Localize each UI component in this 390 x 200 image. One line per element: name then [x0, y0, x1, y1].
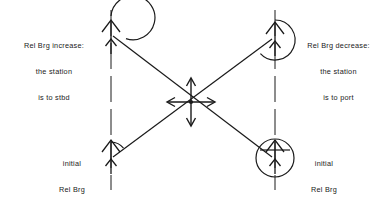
label-bottom-right-line1: initial: [300, 160, 348, 169]
label-bottom-right: initial Rel Brg: [300, 143, 348, 200]
ship-top-left: [102, 0, 155, 54]
label-bottom-left-line2: Rel Brg: [48, 186, 96, 195]
label-top-right-line2: the station: [291, 68, 386, 77]
ship-bottom-right: [256, 139, 294, 177]
label-top-right-line3: is to port: [291, 94, 386, 103]
station-center-dot: [189, 100, 193, 104]
label-top-left: Rel Brg increase: the station is to stbd: [8, 25, 100, 120]
ship-bottom-left: [102, 140, 124, 174]
label-bottom-left-line1: initial: [48, 160, 96, 169]
station-marker: [167, 78, 215, 126]
bearing-arc-top-left: [111, 0, 155, 40]
relative-bearing-diagram: Rel Brg increase: the station is to stbd…: [0, 0, 390, 200]
label-top-right-line1: Rel Brg decrease:: [291, 42, 386, 51]
label-bottom-right-line2: Rel Brg: [300, 186, 348, 195]
ship-top-right: [260, 20, 295, 60]
label-bottom-left: initial Rel Brg: [48, 143, 96, 200]
label-top-right: Rel Brg decrease: the station is to port: [291, 25, 386, 120]
label-top-left-line2: the station: [8, 68, 100, 77]
label-top-left-line3: is to stbd: [8, 94, 100, 103]
label-top-left-line1: Rel Brg increase:: [8, 42, 100, 51]
